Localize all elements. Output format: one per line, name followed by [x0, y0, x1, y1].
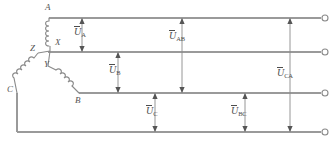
u-bc-subscript: BC	[238, 110, 246, 117]
u-b-subscript: B	[116, 69, 120, 76]
u-ab-subscript: AB	[176, 35, 185, 42]
terminal-b[interactable]	[322, 90, 328, 96]
voltage-label-u-bc: UBC	[231, 106, 247, 116]
voltage-label-u-b: UB	[109, 65, 120, 75]
lead-y-stub	[48, 66, 56, 70]
voltage-label-u-c: UC	[146, 106, 157, 116]
lead-z-stub	[34, 53, 38, 58]
node-label-y: Y	[44, 60, 49, 69]
node-label-c: C	[7, 85, 13, 94]
voltage-label-u-ab: UAB	[169, 31, 185, 41]
u-c-subscript: C	[153, 110, 157, 117]
node-label-z: Z	[30, 44, 35, 53]
coil-z-c	[13, 57, 34, 93]
coil-y-b	[56, 69, 79, 93]
voltage-label-u-ca: UCA	[277, 68, 293, 78]
node-label-b: B	[75, 96, 81, 105]
node-label-a: A	[45, 3, 51, 12]
voltage-label-u-a: UA	[74, 27, 86, 37]
terminal-c[interactable]	[322, 129, 328, 135]
coil-a-x	[46, 18, 49, 46]
node-label-x: X	[55, 38, 61, 47]
terminal-a[interactable]	[322, 15, 328, 21]
u-ca-subscript: CA	[284, 72, 293, 79]
schematic-canvas: A X Z Y B C UA UB UC UAB UBC UCA	[0, 0, 335, 150]
u-ab-arrow	[179, 18, 184, 93]
u-a-subscript: A	[81, 31, 86, 38]
terminal-x[interactable]	[322, 49, 328, 55]
